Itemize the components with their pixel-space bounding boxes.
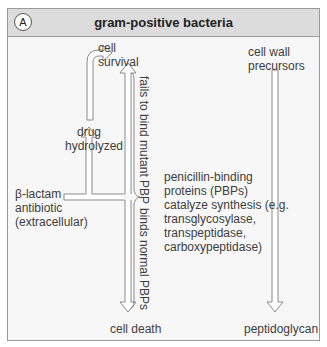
edge-label-fails-to-bind: fails to bind mutant PBP [137,76,151,204]
node-cell-death: cell death [110,322,161,336]
node-text: carboxypeptidase) [164,240,289,254]
node-text: proteins (PBPs) [164,184,289,198]
node-text: transpeptidase, [164,226,289,240]
node-cell-wall-precursors: cell wall precursors [248,45,305,73]
node-text: cell wall [248,45,305,59]
node-text: hydrolyzed [65,139,113,153]
node-cell-survival: cell survival [98,41,139,69]
node-text: cell [98,41,139,55]
node-beta-lactam: β-lactam antibiotic (extracellular) [15,187,88,229]
node-text: penicillin-binding [164,170,289,184]
node-pbp-description: penicillin-binding proteins (PBPs) catal… [164,170,289,254]
node-text: drug [65,125,113,139]
edge-label-binds-normal: binds normal PBPs [137,208,151,310]
node-text: precursors [248,59,305,73]
node-text: catalyze synthesis (e.g. [164,198,289,212]
node-peptidoglycan: peptidoglycan [244,322,318,336]
node-text: survival [98,55,139,69]
node-text: (extracellular) [15,215,88,229]
node-text: β-lactam [15,187,88,201]
node-drug-hydrolyzed-text: drug hydrolyzed [65,125,113,153]
node-text: transglycosylase, [164,212,289,226]
node-text: antibiotic [15,201,88,215]
